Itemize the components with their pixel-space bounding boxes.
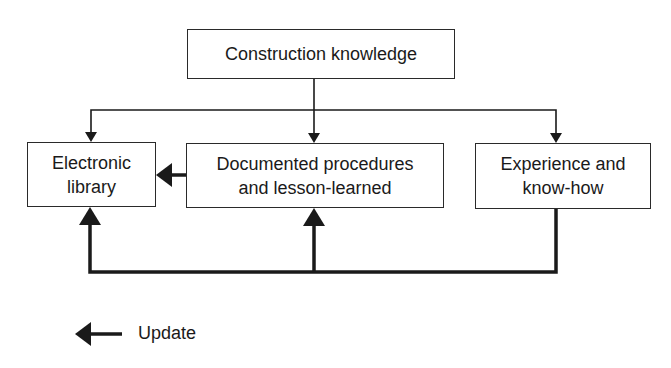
thin-arrowheads [85, 132, 562, 143]
legend-update-arrow-icon [75, 322, 122, 346]
node-label-line1: Documented procedures [216, 152, 413, 176]
node-documented-procedures: Documented procedures and lesson-learned [186, 143, 444, 208]
node-experience-know-how: Experience and know-how [475, 143, 651, 209]
arrow-down-icon [550, 133, 562, 143]
node-label-line1: Experience and [500, 152, 625, 176]
legend-update-label: Update [138, 323, 196, 344]
node-label-line1: Electronic [52, 151, 131, 175]
thin-connectors [91, 78, 556, 134]
node-construction-knowledge: Construction knowledge [187, 29, 455, 79]
arrow-down-icon [85, 132, 97, 142]
node-label: Construction knowledge [225, 42, 417, 66]
node-label-line2: library [67, 175, 116, 199]
node-label-line2: and lesson-learned [238, 176, 391, 200]
node-label-line2: know-how [522, 176, 603, 200]
arrow-left-icon [156, 163, 172, 187]
arrow-down-icon [308, 133, 320, 143]
arrow-up-icon [303, 208, 325, 226]
node-electronic-library: Electronic library [27, 142, 156, 207]
arrow-up-icon [79, 207, 101, 225]
